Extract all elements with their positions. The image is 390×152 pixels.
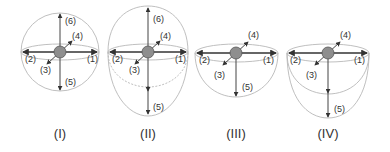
- label-5: (5): [65, 77, 76, 87]
- center-ball: [322, 47, 334, 59]
- label-1: (1): [263, 55, 274, 65]
- label-1: (1): [354, 55, 365, 65]
- center-ball: [230, 47, 242, 59]
- center-ball: [54, 46, 66, 58]
- label-5: (5): [334, 104, 345, 114]
- label-4: (4): [72, 31, 83, 41]
- caption-ii: (II): [140, 126, 156, 141]
- panel-hemisphere: (1) (2) (3) (4) (5) (III): [195, 30, 278, 141]
- label-2: (2): [199, 55, 210, 65]
- label-6: (6): [65, 16, 76, 26]
- label-4: (4): [160, 31, 171, 41]
- caption-i: (I): [54, 126, 66, 141]
- caption-iv: (IV): [318, 126, 339, 141]
- label-3: (3): [306, 70, 317, 80]
- label-4: (4): [340, 30, 351, 40]
- label-4: (4): [248, 30, 259, 40]
- diagram-canvas: (1) (2) (3) (4) (5) (6) (I) (1) (2) (3) …: [0, 0, 390, 152]
- label-1: (1): [175, 54, 186, 64]
- label-5: (5): [153, 102, 164, 112]
- label-3: (3): [129, 65, 140, 75]
- center-ball: [142, 46, 154, 58]
- label-2: (2): [25, 54, 36, 64]
- panel-sphere: (1) (2) (3) (4) (5) (6) (I): [21, 13, 99, 141]
- panel-semi-ellipsoid: (1) (2) (3) (4) (5) (IV): [287, 30, 369, 141]
- panel-ellipsoid: (1) (2) (3) (4) (5) (6) (II): [108, 6, 188, 141]
- label-5: (5): [242, 82, 253, 92]
- label-2: (2): [290, 55, 301, 65]
- caption-iii: (III): [226, 126, 246, 141]
- label-2: (2): [112, 54, 123, 64]
- label-3: (3): [214, 70, 225, 80]
- label-6: (6): [153, 14, 164, 24]
- label-3: (3): [40, 65, 51, 75]
- label-1: (1): [87, 54, 98, 64]
